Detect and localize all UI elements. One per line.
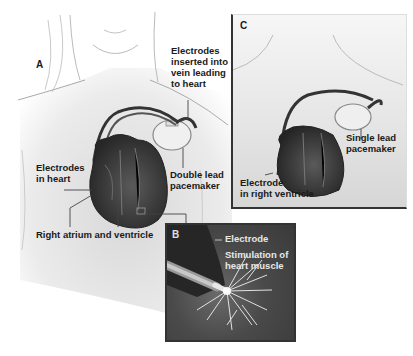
panel-c: C Single lead pacemaker Electrode in rig… [231,14,407,209]
label-electrodes-heart: Electrodes in heart [36,162,85,184]
label-right-atrium: Right atrium and ventricle [36,229,153,240]
label-electrode: Electrode [225,233,268,244]
pacemaker-diagram: A Electrodes inserted into vein leading … [0,0,413,356]
label-double-lead: Double lead pacemaker [170,169,224,191]
panel-b-letter: B [172,229,179,240]
label-electrodes-vein: Electrodes inserted into vein leading to… [171,45,228,89]
label-electrode-rv: Electrode in right ventricle [240,177,314,199]
pacemaker-c [335,104,371,130]
panel-c-letter: C [240,20,247,31]
panel-a-letter: A [36,59,43,70]
label-stimulation: Stimulation of heart muscle [225,249,288,271]
label-single-lead: Single lead pacemaker [346,132,396,154]
panel-b: B Electrode Stimulation of heart muscle [165,223,296,342]
